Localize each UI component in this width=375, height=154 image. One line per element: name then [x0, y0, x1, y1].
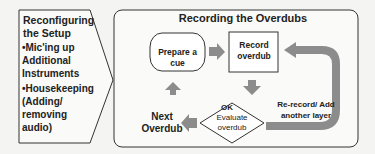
setup-title: Reconfiguring the Setup: [23, 14, 91, 40]
ok-label: OK: [221, 102, 233, 113]
setup-item-text: Housekeeping (Adding/ removing audio): [22, 83, 94, 133]
overdub-title: Recording the Overdubs: [178, 13, 308, 24]
evaluate-overdub-label: Evaluate overdub: [212, 113, 252, 133]
setup-item-text: Mic'ing up Additional Instruments: [22, 42, 79, 79]
rerecord-label: Re-record/ Add another layer: [276, 99, 336, 121]
setup-item-micing: •Mic'ing up Additional Instruments: [22, 41, 92, 80]
setup-item-housekeeping: •Housekeeping (Adding/ removing audio): [22, 82, 92, 134]
next-overdub-label: Next Overdub: [140, 111, 184, 135]
prepare-cue-label: Prepare a cue: [150, 47, 205, 69]
record-overdub-label: Record overdub: [236, 40, 272, 62]
setup-list: •Mic'ing up Additional Instruments •Hous…: [22, 41, 92, 136]
